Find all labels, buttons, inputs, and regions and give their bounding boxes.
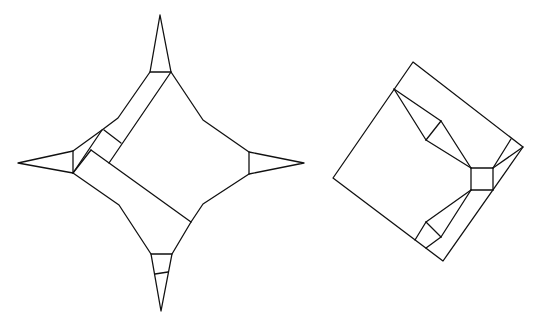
crease-line: [426, 121, 441, 140]
crease-line: [441, 190, 471, 237]
figure-square: [333, 62, 523, 261]
crease-line: [415, 222, 426, 240]
crease-line: [426, 237, 441, 248]
crease-line: [493, 147, 523, 168]
crease-line: [394, 89, 441, 121]
crease-line: [441, 121, 471, 168]
crease-line: [426, 140, 471, 168]
crease-line: [426, 222, 441, 237]
crease-line: [73, 150, 91, 173]
crease-line: [91, 150, 191, 222]
crease-line: [426, 190, 471, 222]
square-base-fold-outline: [333, 62, 523, 261]
crease-line: [104, 130, 121, 143]
crease-line: [155, 272, 168, 274]
four-point-star-fold-outline: [18, 15, 304, 311]
figure-star: [18, 15, 304, 311]
crease-line: [394, 89, 426, 140]
crease-line: [493, 139, 511, 168]
diagram-canvas: [0, 0, 539, 322]
